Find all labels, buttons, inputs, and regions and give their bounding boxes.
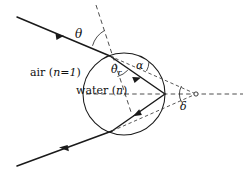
label-air-paren-close: ) [76,66,80,79]
label-air-paren-open: ( [45,66,53,79]
incident-ray [17,17,110,56]
label-theta-r-subscript: r [118,68,122,77]
label-angle-theta: θ [75,28,82,40]
deviation-vertex-marker [194,92,198,96]
label-angle-alpha: α [136,60,143,71]
label-air-medium: air (n=1) [30,67,81,78]
angle-arc-alpha [147,62,150,71]
label-water-medium: water (n) [76,85,127,96]
label-air-text: air [30,66,45,79]
optics-diagram-figure: air (n=1) water (n) θ θr α δ [0,0,246,173]
label-water-text: water [76,84,108,97]
label-theta-r-base: θ [111,63,118,76]
label-angle-theta-r: θr [111,64,121,76]
label-angle-delta: δ [180,101,187,112]
label-water-paren-close: ) [123,84,127,97]
refracted-ray-arrowhead [132,77,141,83]
label-air-index: n=1 [53,66,76,79]
label-water-paren-open: ( [108,84,116,97]
label-water-index: n [116,84,123,97]
angle-arc-theta [93,31,105,46]
